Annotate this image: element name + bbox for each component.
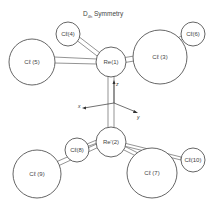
label-cl4: Cℓ(4) xyxy=(61,31,75,37)
y-arrowhead-icon xyxy=(133,110,138,113)
bond-re1-cl5 xyxy=(54,57,97,64)
diagram-title: D4h Symmetry xyxy=(83,10,124,19)
label-cl7: Cℓ (7) xyxy=(144,170,159,176)
label-cl9: Cℓ (9) xyxy=(29,171,44,177)
label-cl6: Cℓ(6) xyxy=(186,31,200,37)
label-cl8: Cℓ(8) xyxy=(70,147,84,153)
label-cl10: Cℓ(10) xyxy=(185,157,202,163)
molecule-drawing: D4h Symmetry Cℓ(4) Cℓ (5) Cℓ (3) Cℓ(6) R… xyxy=(0,0,217,201)
label-cl3: Cℓ (3) xyxy=(152,54,167,60)
x-axis-label: x xyxy=(77,103,81,109)
y-axis-label: y xyxy=(136,114,140,120)
x-arrowhead-icon xyxy=(82,107,86,110)
z-axis-label: z xyxy=(115,81,119,87)
label-cl5: Cℓ (5) xyxy=(24,59,39,65)
y-axis-arrow xyxy=(114,103,136,112)
label-re1: Re(1) xyxy=(103,59,118,65)
d4h-symmetry-diagram: D4h Symmetry Cℓ(4) Cℓ (5) Cℓ (3) Cℓ(6) R… xyxy=(0,0,217,201)
label-re2: Re'(2) xyxy=(103,139,119,145)
